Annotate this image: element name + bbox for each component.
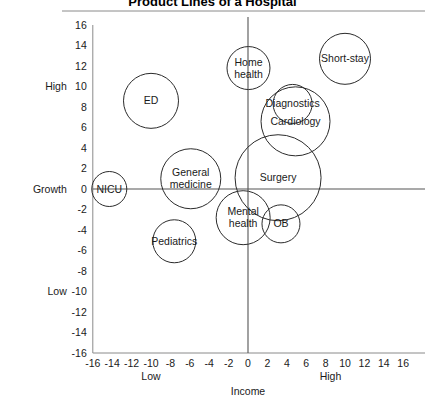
x-tick-label: -4: [205, 357, 214, 369]
x-tick-label: -2: [224, 357, 233, 369]
y-tick-label: 4: [81, 142, 87, 154]
y-tick-label: -14: [72, 326, 87, 338]
y-axis-high-label: High: [45, 80, 67, 92]
bubble-label: Surgery: [260, 171, 298, 183]
x-tick-label: -6: [185, 357, 194, 369]
x-tick-label: 12: [359, 357, 371, 369]
bubble-label: health: [229, 217, 258, 229]
y-tick-label: -8: [77, 265, 86, 277]
y-axis-low-label: Low: [48, 285, 68, 297]
bubble: Generalmedicine: [161, 149, 221, 209]
bubble-label: General: [172, 166, 209, 178]
x-tick-label: 10: [339, 357, 351, 369]
x-tick-label: 0: [245, 357, 251, 369]
x-tick-label: -14: [105, 357, 120, 369]
y-tick-label: 14: [75, 39, 87, 51]
x-tick-label: 6: [303, 357, 309, 369]
bubble: OB: [262, 205, 300, 243]
bubble: Pediatrics: [151, 220, 197, 263]
y-tick-label: 16: [75, 19, 87, 31]
bubble: ED: [124, 73, 179, 128]
x-tick-label: 4: [284, 357, 290, 369]
bubble-label: medicine: [170, 178, 212, 190]
bubble-label: Diagnostics: [265, 97, 319, 109]
bubble: NICU: [92, 172, 127, 207]
x-tick-label: -12: [124, 357, 139, 369]
bubble-label: NICU: [96, 183, 122, 195]
y-tick-label: 8: [81, 101, 87, 113]
plot-area: 1614121086420-2-4-6-8-10-12-14-16-16-14-…: [0, 0, 425, 410]
bubble-label: health: [234, 68, 263, 80]
bubble-label: Mental: [227, 205, 259, 217]
y-tick-label: -10: [72, 285, 87, 297]
bubble-series: EDNICUGeneralmedicinePediatricsHomehealt…: [92, 33, 371, 262]
bubble-label: Pediatrics: [151, 235, 197, 247]
y-tick-label: -6: [77, 244, 86, 256]
y-tick-label: 2: [81, 162, 87, 174]
x-tick-label: -16: [85, 357, 100, 369]
y-tick-label: -2: [77, 203, 86, 215]
bubble-label: ED: [144, 94, 159, 106]
x-tick-label: 16: [397, 357, 409, 369]
bubble-label: OB: [273, 217, 288, 229]
bubble-chart: Product Lines of a Hospital 161412108642…: [0, 0, 425, 410]
y-tick-label: 0: [81, 183, 87, 195]
y-tick-label: 6: [81, 121, 87, 133]
y-tick-label: 10: [75, 80, 87, 92]
x-axis-title: Income: [231, 385, 266, 397]
y-axis-title: Growth: [33, 183, 67, 195]
x-tick-label: -10: [143, 357, 158, 369]
bubble-label: Home: [234, 56, 262, 68]
x-tick-label: 2: [264, 357, 270, 369]
x-tick-label: -8: [166, 357, 175, 369]
y-tick-label: -12: [72, 306, 87, 318]
x-tick-label: 14: [378, 357, 390, 369]
y-tick-label: -4: [77, 224, 86, 236]
x-axis-low-label: Low: [141, 370, 161, 382]
x-axis-high-label: High: [320, 370, 342, 382]
bubble-label: Short-stay: [321, 52, 370, 64]
y-tick-label: 12: [75, 60, 87, 72]
bubble: Short-stay: [320, 33, 371, 84]
x-tick-label: 8: [323, 357, 329, 369]
bubble-label: Cardiology: [270, 115, 321, 127]
